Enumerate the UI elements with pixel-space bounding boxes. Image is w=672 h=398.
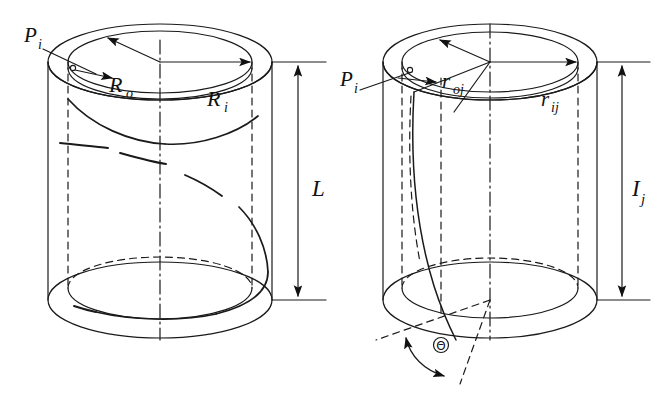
- label-pi-left-base: P: [23, 23, 37, 47]
- label-ro-sub: o: [126, 86, 133, 101]
- label-rij-sub: ij: [551, 100, 559, 115]
- left-radius-ro-arrow: [108, 38, 160, 62]
- left-pi-tangent-arrow: [75, 70, 112, 78]
- label-pi-right-sub: i: [354, 81, 358, 96]
- label-rij-base: r: [541, 87, 550, 111]
- right-helix-segment: [413, 92, 456, 340]
- right-radius-roj-arrow: [440, 40, 490, 62]
- label-layer: P i R o R i L P i r oj r ij I j Θ: [23, 23, 645, 353]
- label-pi-left-sub: i: [38, 37, 42, 52]
- label-ro-base: R: [108, 72, 123, 97]
- label-pi-right-base: P: [339, 67, 353, 91]
- right-cylinder-group: [360, 24, 650, 384]
- left-helix-bottom-left: [96, 312, 216, 319]
- label-length-l: L: [311, 176, 325, 201]
- label-ij-sub: j: [639, 191, 645, 207]
- left-pi-point-marker: [70, 65, 75, 70]
- label-ri-base: R: [206, 86, 221, 111]
- figure-root: P i R o R i L P i r oj r ij I j Θ: [0, 0, 672, 398]
- left-helix-bottom-right: [216, 272, 268, 314]
- right-pi-point-marker: [407, 67, 412, 72]
- label-ri-sub: i: [224, 100, 228, 115]
- right-pi-leader-line: [360, 72, 412, 90]
- left-helix-right-descend: [239, 207, 268, 272]
- right-theta-ray-b: [460, 300, 490, 384]
- label-roj-sub: oj: [453, 82, 464, 97]
- left-helix-broken-c: [185, 175, 222, 196]
- left-helix-front-upper2: [165, 116, 258, 144]
- cylinder-helix-diagram: P i R o R i L P i r oj r ij I j Θ: [0, 0, 672, 398]
- label-theta: Θ: [436, 339, 445, 353]
- left-cylinder-group: [43, 24, 326, 340]
- left-helix-broken-a: [60, 143, 108, 148]
- label-ij-base: I: [631, 176, 641, 201]
- left-helix-broken-b: [120, 153, 166, 164]
- label-roj-base: r: [442, 69, 451, 93]
- right-theta-ray-a: [376, 300, 490, 340]
- left-helix-front-upper: [68, 99, 165, 144]
